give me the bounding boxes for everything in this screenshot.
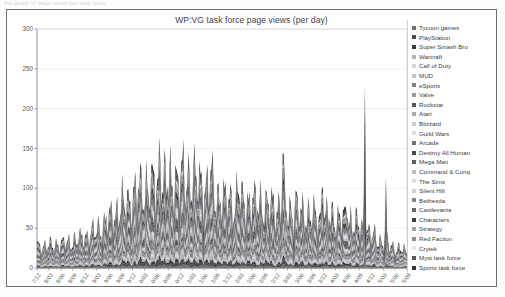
legend-item[interactable]: Blizzard xyxy=(412,119,493,129)
legend-swatch-icon xyxy=(412,266,416,270)
legend-item-label: Rockstar xyxy=(419,100,443,110)
legend-item-label: Tycoon games xyxy=(419,23,459,33)
legend-item-label: PlayStation xyxy=(419,33,450,43)
legend-item-label: Atari xyxy=(419,109,432,119)
legend-item[interactable]: Warcraft xyxy=(412,52,493,62)
legend-swatch-icon xyxy=(412,218,416,222)
legend-item-label: Warcraft xyxy=(419,52,442,62)
legend-swatch-icon xyxy=(412,208,416,212)
legend-swatch-icon xyxy=(412,103,416,107)
legend-item[interactable]: Bethesda xyxy=(412,196,493,206)
chart-legend: Tycoon gamesPlayStationSuper Smash BroWa… xyxy=(407,20,493,273)
legend-item-label: Arcade xyxy=(419,138,439,148)
legend-swatch-icon xyxy=(412,189,416,193)
legend-item[interactable]: Mega Man xyxy=(412,157,493,167)
legend-swatch-icon xyxy=(412,198,416,202)
legend-item-label: Castlevania xyxy=(419,205,451,215)
legend-item[interactable]: Crytek xyxy=(412,244,493,254)
legend-item-label: Call of Duty xyxy=(419,61,451,71)
legend-item[interactable]: Tycoon games xyxy=(412,23,493,33)
legend-swatch-icon xyxy=(412,170,416,174)
legend-swatch-icon xyxy=(412,55,416,59)
legend-item[interactable]: Arcade xyxy=(412,138,493,148)
y-axis-tick-label: 300 xyxy=(11,25,33,32)
legend-swatch-icon xyxy=(412,122,416,126)
legend-swatch-icon xyxy=(412,179,416,183)
legend-item-label: Crytek xyxy=(419,244,437,254)
y-axis-tick-label: 150 xyxy=(11,145,33,152)
legend-swatch-icon xyxy=(412,237,416,241)
legend-item-label: Bethesda xyxy=(419,196,445,206)
legend-item[interactable]: Guild Wars xyxy=(412,129,493,139)
legend-item-label: Blizzard xyxy=(419,119,441,129)
legend-item[interactable]: Sports task force xyxy=(412,263,493,273)
legend-item-label: Valve xyxy=(419,90,434,100)
legend-item-label: Myst task force xyxy=(419,253,461,263)
legend-item-label: Super Smash Bro xyxy=(419,42,468,52)
legend-item[interactable]: Valve xyxy=(412,90,493,100)
legend-swatch-icon xyxy=(412,227,416,231)
legend-item-label: Command & Conq xyxy=(419,167,470,177)
legend-item[interactable]: PlayStation xyxy=(412,33,493,43)
legend-item-label: Mega Man xyxy=(419,157,448,167)
y-axis-tick-label: 250 xyxy=(11,65,33,72)
legend-swatch-icon xyxy=(412,35,416,39)
legend-swatch-icon xyxy=(412,83,416,87)
legend-swatch-icon xyxy=(412,256,416,260)
legend-swatch-icon xyxy=(412,246,416,250)
legend-item[interactable]: Atari xyxy=(412,109,493,119)
legend-item[interactable]: MUD xyxy=(412,71,493,81)
chart-frame: WP:VG task force page views (per day) 05… xyxy=(6,9,497,287)
y-axis-tick-label: 100 xyxy=(11,184,33,191)
legend-swatch-icon xyxy=(412,151,416,155)
legend-item[interactable]: Strategy xyxy=(412,224,493,234)
legend-item[interactable]: Silent Hill xyxy=(412,186,493,196)
legend-item[interactable]: Characters xyxy=(412,215,493,225)
legend-swatch-icon xyxy=(412,64,416,68)
legend-swatch-icon xyxy=(412,160,416,164)
y-axis-tick-label: 50 xyxy=(11,224,33,231)
legend-item-label: Red Faction xyxy=(419,234,452,244)
legend-item[interactable]: Rockstar xyxy=(412,100,493,110)
legend-item-label: MUD xyxy=(419,71,433,81)
legend-swatch-icon xyxy=(412,131,416,135)
legend-item-label: Characters xyxy=(419,215,449,225)
top-cutoff-text: the graph of page views per task force xyxy=(4,0,174,7)
legend-item[interactable]: Call of Duty xyxy=(412,61,493,71)
legend-swatch-icon xyxy=(412,93,416,97)
legend-item-label: Sports task force xyxy=(419,263,465,273)
legend-swatch-icon xyxy=(412,26,416,30)
legend-item-label: Silent Hill xyxy=(419,186,445,196)
legend-swatch-icon xyxy=(412,45,416,49)
legend-item[interactable]: eSports xyxy=(412,81,493,91)
legend-item-label: Guild Wars xyxy=(419,129,449,139)
legend-item[interactable]: Destroy All Human xyxy=(412,148,493,158)
legend-item[interactable]: Red Faction xyxy=(412,234,493,244)
legend-item-label: eSports xyxy=(419,81,440,91)
legend-item-label: Destroy All Human xyxy=(419,148,470,158)
legend-swatch-icon xyxy=(412,112,416,116)
legend-item-label: Strategy xyxy=(419,224,442,234)
legend-swatch-icon xyxy=(412,141,416,145)
legend-item[interactable]: Castlevania xyxy=(412,205,493,215)
legend-item[interactable]: Super Smash Bro xyxy=(412,42,493,52)
legend-item[interactable]: Myst task force xyxy=(412,253,493,263)
y-axis-tick-label: 200 xyxy=(11,105,33,112)
legend-swatch-icon xyxy=(412,74,416,78)
legend-item-label: The Sims xyxy=(419,177,445,187)
legend-item[interactable]: Command & Conq xyxy=(412,167,493,177)
screenshot-root: the graph of page views per task force W… xyxy=(0,0,505,297)
y-axis-tick-label: 0 xyxy=(11,264,33,271)
legend-item[interactable]: The Sims xyxy=(412,177,493,187)
